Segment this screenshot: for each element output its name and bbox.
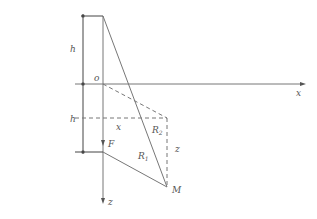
R2-label: R2 bbox=[151, 125, 163, 136]
z-axis-label: z bbox=[107, 197, 113, 207]
R1-label: R1 bbox=[137, 151, 149, 162]
x-axis-label: x bbox=[296, 88, 301, 98]
M-label: M bbox=[171, 185, 182, 195]
diagram: h h o x z x z F R1 R2 M bbox=[0, 0, 317, 219]
x-dist-label: x bbox=[116, 122, 121, 132]
F-label: F bbox=[107, 139, 115, 149]
origin-label: o bbox=[94, 73, 100, 83]
h-label-bottom: h bbox=[70, 114, 76, 124]
h-label-top: h bbox=[70, 44, 76, 54]
z-dist-label: z bbox=[174, 144, 180, 154]
R1-line bbox=[103, 152, 167, 187]
